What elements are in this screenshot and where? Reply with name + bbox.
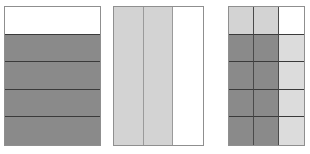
grid-cell xyxy=(254,35,279,63)
grid-cell xyxy=(114,7,144,145)
grid-cell xyxy=(229,90,254,118)
grid-cell xyxy=(5,62,100,90)
grid-block-three xyxy=(228,6,305,146)
grid-cell xyxy=(229,7,254,35)
grid-cell xyxy=(254,117,279,145)
grid-cell xyxy=(5,117,100,145)
grid-cell xyxy=(229,62,254,90)
grid-cell xyxy=(5,7,100,35)
grid-cell xyxy=(254,90,279,118)
grid-cell xyxy=(279,62,304,90)
grid-cell xyxy=(279,90,304,118)
grid-cell xyxy=(229,117,254,145)
grid-cell xyxy=(279,117,304,145)
grid-block-one xyxy=(4,6,101,146)
diagram-canvas xyxy=(0,0,310,154)
grid-cell xyxy=(5,35,100,63)
grid-cell xyxy=(173,7,203,145)
grid-cell xyxy=(279,7,304,35)
grid-cell xyxy=(254,62,279,90)
grid-cell xyxy=(254,7,279,35)
grid-block-two xyxy=(113,6,204,146)
grid-cell xyxy=(229,35,254,63)
grid-cell xyxy=(5,90,100,118)
grid-cell xyxy=(144,7,174,145)
grid-cell xyxy=(279,35,304,63)
